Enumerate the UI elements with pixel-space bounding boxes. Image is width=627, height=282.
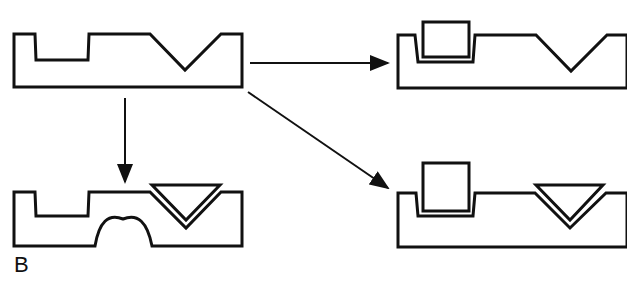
diagram-canvas bbox=[0, 0, 627, 282]
square-insert-block bbox=[398, 35, 627, 88]
square-insert-2 bbox=[423, 163, 469, 211]
arrow-down-right bbox=[248, 92, 388, 188]
arch-block bbox=[14, 192, 242, 246]
original-block bbox=[14, 34, 242, 87]
square-triangle-block bbox=[398, 193, 627, 247]
square-insert bbox=[423, 22, 469, 57]
panel-label: B bbox=[14, 252, 29, 278]
